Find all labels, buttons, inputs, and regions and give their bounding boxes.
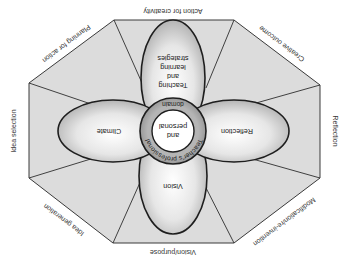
label-reflection: Reflection <box>332 115 339 146</box>
petal-label-teaching-3: learning <box>160 63 186 72</box>
label-vision-purpose: Vision/purpose <box>150 248 196 256</box>
petal-label-teaching-2: and <box>167 72 179 81</box>
petal-label-reflection: Reflection <box>221 127 253 136</box>
core-label-line2: personal <box>158 122 187 131</box>
petal-label-climate: Climate <box>97 127 121 136</box>
label-action-for-creativity: Action for creativity <box>143 7 203 15</box>
label-idea-selection: Idea selection <box>10 109 17 152</box>
creativity-model-diagram: Teacher's professional domain and person… <box>0 0 349 268</box>
petal-label-teaching-4: strategies <box>157 54 189 63</box>
ring-label-bottom: domain <box>162 101 184 108</box>
petal-label-vision: Vision <box>163 182 182 191</box>
petal-label-teaching-1: Teaching <box>159 81 188 90</box>
core-label-line1: and <box>167 131 179 140</box>
